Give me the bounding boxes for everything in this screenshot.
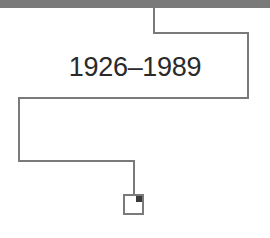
top-bar: [0, 0, 270, 8]
connector-segment-1: [153, 8, 155, 34]
tree-node-square[interactable]: [123, 194, 144, 215]
corner-marker-icon: [136, 196, 142, 202]
connector-segment-2: [153, 32, 249, 34]
date-range-label: 1926–1989: [0, 52, 270, 83]
connector-segment-5: [18, 97, 20, 162]
connector-segment-7: [133, 160, 135, 195]
connector-segment-4: [18, 97, 249, 99]
connector-segment-6: [18, 160, 135, 162]
